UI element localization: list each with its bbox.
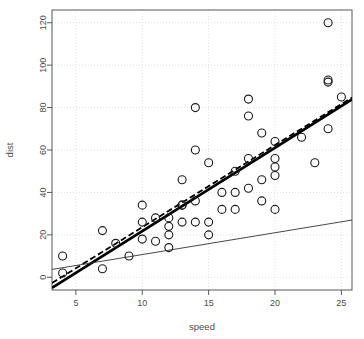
data-point [244,95,252,103]
data-point [244,184,252,192]
data-point [191,146,199,154]
data-point [191,104,199,112]
data-point [178,218,186,226]
reference-line-line [52,220,352,269]
data-points [59,19,346,277]
data-point [218,205,226,213]
x-tick-label: 10 [137,298,147,308]
data-point [258,176,266,184]
x-tick-label: 25 [336,298,346,308]
data-point [271,205,279,213]
data-point [59,252,67,260]
data-point [205,218,213,226]
data-point [311,159,319,167]
y-tick-label: 80 [38,103,48,113]
y-tick-label: 20 [38,230,48,240]
data-point [152,237,160,245]
y-tick-label: 40 [38,187,48,197]
data-point [244,112,252,120]
data-point [178,176,186,184]
data-point [258,197,266,205]
robust-regression-line [52,98,352,284]
scatter-plot-figure: 510152025 020406080100120 speed dist [0,0,364,339]
y-tick-label: 0 [38,275,48,280]
data-point [271,154,279,162]
x-tick-label: 5 [73,298,78,308]
data-point [244,154,252,162]
y-tick-label: 100 [38,58,48,73]
x-tick-label: 20 [270,298,280,308]
y-axis-title: dist [4,142,15,157]
data-point [324,125,332,133]
data-point [191,218,199,226]
data-point [98,227,106,235]
data-point [138,218,146,226]
data-point [152,214,160,222]
data-point [218,188,226,196]
data-point [258,129,266,137]
plot-canvas: 510152025 020406080100120 speed dist [0,0,364,339]
x-axis-title: speed [189,321,215,332]
data-point [298,133,306,141]
y-tick-label: 120 [38,15,48,30]
data-point [231,205,239,213]
grid-lines [52,10,352,290]
ols-regression-line [52,99,352,287]
data-point [165,222,173,230]
data-point [98,265,106,273]
y-tick-label: 60 [38,145,48,155]
y-axis: 020406080100120 [38,15,52,280]
x-axis: 510152025 [73,290,346,308]
x-tick-label: 15 [204,298,214,308]
data-point [205,159,213,167]
